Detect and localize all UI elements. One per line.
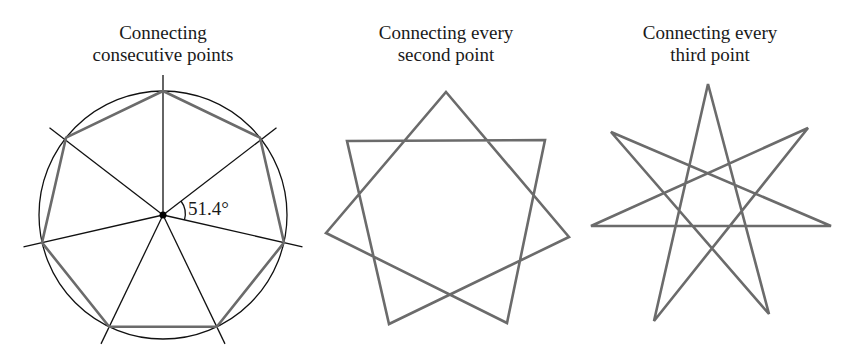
angle-label: 51.4° [188,198,229,220]
heptagram-every-third-point [591,84,831,321]
angle-arc [181,201,185,220]
heptagram-every-second-point [326,92,569,324]
center-point [160,212,167,219]
panel-1-heptagon-construction [24,75,303,344]
figure-canvas [0,0,857,361]
radial-lines [24,75,303,344]
